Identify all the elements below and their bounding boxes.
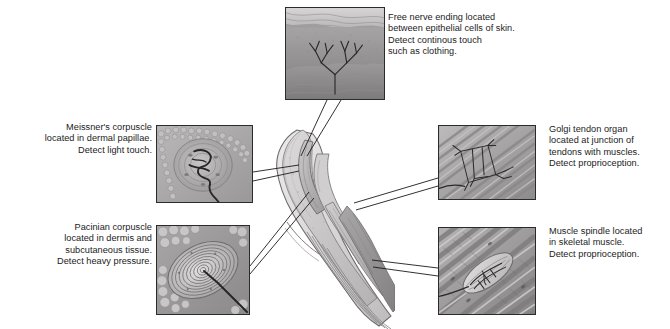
panel-golgi-tendon-organ[interactable] (438, 125, 536, 200)
callout-label-golgi-tendon-organ: Golgi tendon organ located at junction o… (549, 124, 669, 170)
central-fingertip-figure (255, 110, 395, 329)
callout-label-pacinian-corpuscle: Pacinian corpuscle located in dermis and… (17, 222, 152, 268)
callout-label-meissners-corpuscle: Meissner's corpuscle located in dermal p… (27, 122, 152, 156)
anatomical-diagram: Free nerve ending located between epithe… (0, 0, 670, 329)
fingertip-outline (277, 130, 391, 326)
golgi-tendon-organ-micrograph (439, 126, 535, 199)
panel-pacinian-corpuscle[interactable] (156, 225, 250, 315)
panel-muscle-spindle[interactable] (438, 227, 536, 315)
callout-label-free-nerve-ending: Free nerve ending located between epithe… (388, 12, 566, 58)
meissners-corpuscle-micrograph (157, 126, 252, 202)
pacinian-corpuscle-micrograph (157, 226, 249, 314)
callout-label-muscle-spindle: Muscle spindle located in skeletal muscl… (549, 226, 669, 260)
panel-meissners-corpuscle[interactable] (156, 125, 253, 203)
free-nerve-ending-micrograph (286, 8, 384, 99)
muscle-spindle-micrograph (439, 228, 535, 314)
panel-free-nerve-ending[interactable] (285, 7, 385, 100)
